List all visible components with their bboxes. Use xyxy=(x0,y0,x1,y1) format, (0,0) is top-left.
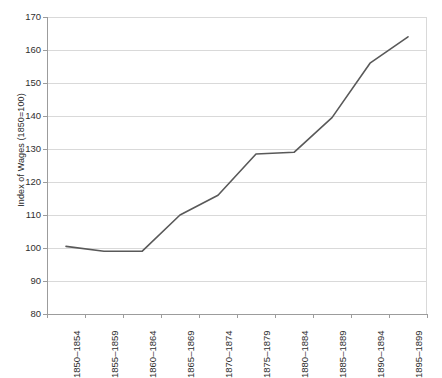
gridlines xyxy=(47,18,427,282)
axis-lines xyxy=(47,17,427,315)
wage-index-data-line xyxy=(66,37,408,252)
y-axis-ticks xyxy=(43,18,47,315)
